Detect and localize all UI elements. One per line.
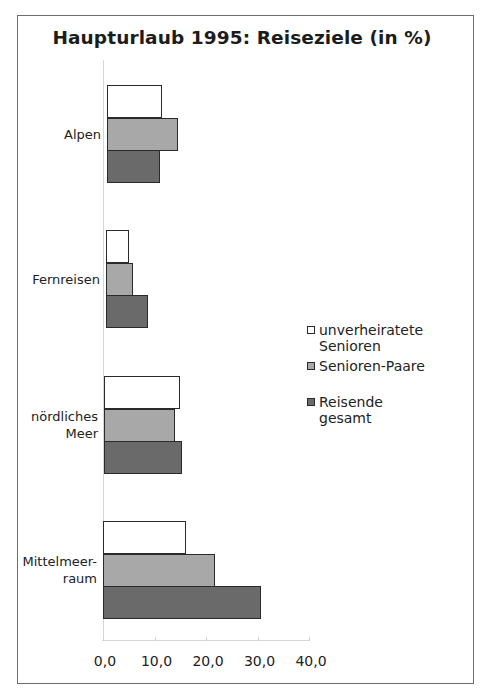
x-tick-label: 0,0 (94, 653, 116, 669)
x-tick-label: 10,0 (141, 653, 172, 669)
bar-mittelmeerraum-series-0 (103, 521, 186, 554)
bar-nördliches-meer-series-0 (104, 376, 180, 409)
category-label: nördliches Meer (8, 408, 98, 442)
x-tick-label: 20,0 (192, 653, 223, 669)
bar-mittelmeerraum-series-1 (103, 554, 215, 587)
x-tick (103, 637, 104, 641)
legend-label: unverheiratete Senioren (319, 322, 439, 354)
category-label: Fernreisen (10, 271, 100, 288)
bar-alpen-series-0 (107, 85, 162, 118)
legend-swatch-icon (307, 326, 315, 334)
bar-nördliches-meer-series-2 (104, 441, 182, 474)
x-tick (309, 637, 310, 641)
x-tick (155, 637, 156, 641)
bar-fernreisen-series-0 (106, 230, 129, 263)
legend-swatch-icon (307, 398, 315, 406)
bar-fernreisen-series-1 (106, 263, 133, 296)
bar-alpen-series-1 (107, 118, 178, 151)
bar-nördliches-meer-series-1 (104, 409, 175, 442)
x-tick-label: 40,0 (295, 653, 326, 669)
category-label: Alpen (11, 126, 101, 143)
x-tick (206, 637, 207, 641)
legend-label: Senioren-Paare (319, 358, 439, 374)
bar-fernreisen-series-2 (106, 295, 148, 328)
legend-label: Reisende gesamt (319, 394, 439, 426)
x-tick-label: 30,0 (244, 653, 275, 669)
category-label: Mittelmeer- raum (7, 553, 97, 587)
legend-swatch-icon (307, 362, 315, 370)
bar-mittelmeerraum-series-2 (103, 586, 261, 619)
x-tick (258, 637, 259, 641)
bar-alpen-series-2 (107, 150, 160, 183)
